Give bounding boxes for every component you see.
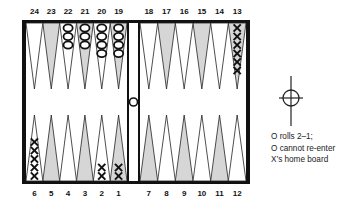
point-label-13: 13 xyxy=(229,7,245,16)
bar-checker-o xyxy=(130,98,138,106)
checker-o-point-22 xyxy=(63,24,72,31)
point-label-10: 10 xyxy=(194,189,210,198)
point-label-19: 19 xyxy=(111,7,127,16)
point-label-4: 4 xyxy=(60,189,76,198)
checker-o-point-22 xyxy=(63,33,72,40)
point-label-16: 16 xyxy=(176,7,192,16)
left-half xyxy=(26,23,127,181)
checker-o-point-19 xyxy=(114,50,123,57)
point-label-14: 14 xyxy=(212,7,228,16)
checker-o-point-20 xyxy=(97,50,106,57)
point-label-2: 2 xyxy=(94,189,110,198)
checker-o-point-19 xyxy=(114,24,123,31)
point-label-7: 7 xyxy=(141,189,157,198)
point-label-5: 5 xyxy=(43,189,59,198)
checker-o-point-21 xyxy=(80,41,89,48)
checker-o-point-19 xyxy=(114,33,123,40)
caption-line-3: X’s home board xyxy=(271,154,335,166)
point-label-18: 18 xyxy=(141,7,157,16)
caption: O rolls 2–1; O cannot re-enter X’s home … xyxy=(271,131,335,166)
point-label-24: 24 xyxy=(26,7,42,16)
caption-line-2: O cannot re-enter xyxy=(271,143,335,155)
checker-o-point-22 xyxy=(63,41,72,48)
point-label-15: 15 xyxy=(194,7,210,16)
point-label-8: 8 xyxy=(159,189,175,198)
checker-o-point-21 xyxy=(80,33,89,40)
backgammon-board xyxy=(0,0,262,203)
point-label-9: 9 xyxy=(176,189,192,198)
checker-o-point-20 xyxy=(97,33,106,40)
checker-o-point-21 xyxy=(80,24,89,31)
right-half xyxy=(140,23,246,181)
caption-line-1: O rolls 2–1; xyxy=(271,131,335,143)
point-label-20: 20 xyxy=(94,7,110,16)
checker-o-point-19 xyxy=(114,41,123,48)
checker-o-point-20 xyxy=(97,41,106,48)
point-label-23: 23 xyxy=(43,7,59,16)
point-label-6: 6 xyxy=(26,189,42,198)
point-label-22: 22 xyxy=(60,7,76,16)
point-label-12: 12 xyxy=(229,189,245,198)
point-label-21: 21 xyxy=(77,7,93,16)
point-label-3: 3 xyxy=(77,189,93,198)
point-label-11: 11 xyxy=(212,189,228,198)
point-label-17: 17 xyxy=(159,7,175,16)
checker-o-point-20 xyxy=(97,24,106,31)
crosshair-target-icon xyxy=(279,76,303,126)
point-label-1: 1 xyxy=(111,189,127,198)
